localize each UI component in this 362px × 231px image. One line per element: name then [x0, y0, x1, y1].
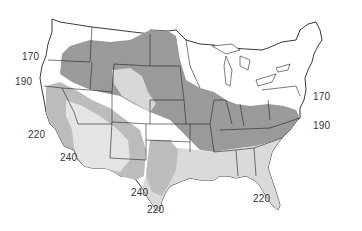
zone-label-fl220: 220 — [253, 193, 270, 204]
zone-label-sw240: 240 — [60, 152, 77, 163]
zone-medium-texas — [146, 140, 178, 196]
zone-label-w220: 220 — [28, 129, 45, 140]
zone-label-w170: 170 — [22, 51, 39, 62]
zone-label-tx240: 240 — [131, 187, 148, 198]
zone-label-w190: 190 — [15, 76, 32, 87]
zone-label-tx220: 220 — [147, 204, 164, 215]
zone-label-e190: 190 — [313, 120, 330, 131]
zone-label-e170: 170 — [313, 91, 330, 102]
us-map — [0, 0, 362, 231]
